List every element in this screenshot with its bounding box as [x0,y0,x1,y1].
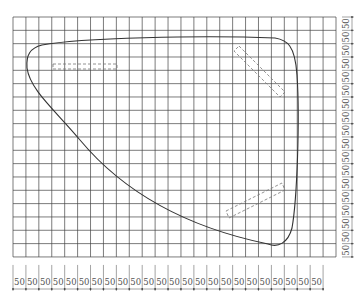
dimension-label: 50 [341,125,351,136]
dimension-label: 50 [341,232,351,243]
dimension-label: 50 [40,277,51,287]
dimension-label: 50 [156,277,167,287]
dimension-label: 50 [92,277,103,287]
dimension-label: 50 [341,72,351,83]
dimension-label: 50 [117,277,128,287]
dashed-rect-top-right [234,46,285,97]
dimension-label: 50 [341,165,351,176]
grid-diagram: 5050505050505050505050505050505050505050… [0,0,363,303]
dimension-label: 50 [66,277,77,287]
dimension-label: 50 [341,178,351,189]
dimension-label: 50 [341,138,351,149]
dimension-label: 50 [247,277,258,287]
dimension-label: 50 [341,85,351,96]
curved-outline [27,37,298,245]
dimension-label: 50 [341,192,351,203]
dimension-label: 50 [79,277,90,287]
dashed-rect-left [53,64,117,69]
dimension-label: 50 [104,277,115,287]
dimension-label: 50 [285,277,296,287]
dimension-label: 50 [341,98,351,109]
dimension-label: 50 [234,277,245,287]
dimension-label: 50 [182,277,193,287]
dimension-label: 50 [208,277,219,287]
dimension-label: 50 [341,45,351,56]
dimension-label: 50 [341,58,351,69]
dimension-label: 50 [221,277,232,287]
dimension-label: 50 [143,277,154,287]
dimension-label: 50 [27,277,38,287]
dimension-label: 50 [195,277,206,287]
dimension-label: 50 [341,112,351,123]
dimension-label: 50 [53,277,64,287]
dimension-label: 50 [260,277,271,287]
dimension-label: 50 [169,277,180,287]
grid-lines [13,17,336,257]
dimension-label: 50 [14,277,25,287]
dimension-label: 50 [298,277,309,287]
dimension-label: 50 [341,152,351,163]
dimension-label: 50 [341,205,351,216]
dimension-label: 50 [311,277,322,287]
bottom-dimension-labels: 5050505050505050505050505050505050505050… [12,265,324,291]
dimension-label: 50 [272,277,283,287]
dashed-rect-bottom-right [226,183,285,218]
dimension-label: 50 [341,218,351,229]
dimension-label: 50 [341,18,351,29]
dimension-label: 50 [130,277,141,287]
dimension-label: 50 [341,245,351,256]
right-dimension-labels: 505050505050505050505050505050505050 [341,16,354,258]
dashed-shapes [53,46,285,218]
dimension-label: 50 [341,32,351,43]
